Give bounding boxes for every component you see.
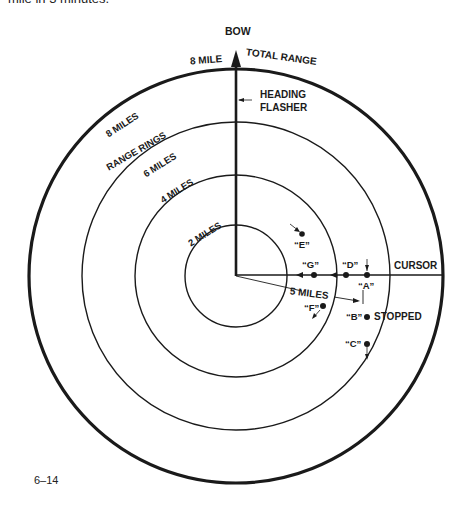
- two-miles-label: 2 MILES: [186, 219, 223, 248]
- target-f-blip: [320, 303, 326, 309]
- pointer-arrow-icon: [238, 98, 244, 102]
- five-miles-label: 5 MILES: [289, 285, 329, 301]
- radar-diagram: BOW 8 MILE TOTAL RANGE HEADING FLASHER 8…: [0, 0, 468, 517]
- target-c-label: “C”: [345, 338, 362, 349]
- target-a-blip: [364, 272, 370, 278]
- bow-label: BOW: [225, 25, 251, 37]
- target-d-label: “D”: [342, 259, 359, 270]
- target-d-blip: [343, 272, 349, 278]
- target-g-arrow-icon: [296, 272, 303, 278]
- target-g-blip: [311, 272, 317, 278]
- total-range-label: TOTAL RANGE: [245, 46, 317, 67]
- target-g-label: “G”: [302, 259, 319, 270]
- target-a-arrow-icon: [365, 265, 369, 271]
- flasher-label: FLASHER: [260, 102, 308, 113]
- target-d-arrow-icon: [330, 272, 337, 278]
- target-c-blip: [364, 341, 370, 347]
- target-f-label: “F”: [304, 302, 320, 313]
- target-a-label: “A”: [358, 280, 375, 291]
- five-mile-arrow-icon: [353, 298, 360, 303]
- figure-number: 6–14: [34, 474, 58, 486]
- target-b-blip: [364, 314, 370, 320]
- target-e-blip: [299, 231, 305, 237]
- stopped-label: STOPPED: [374, 311, 422, 322]
- target-e-label: “E”: [294, 239, 310, 250]
- bow-arrowhead-icon: [231, 50, 241, 67]
- six-miles-label: 6 MILES: [141, 150, 178, 179]
- eight-mile-label: 8 MILE: [190, 53, 223, 66]
- four-miles-label: 4 MILES: [158, 176, 195, 205]
- cursor-label: CURSOR: [394, 260, 438, 271]
- heading-label: HEADING: [260, 89, 306, 100]
- target-b-label: “B”: [346, 311, 363, 322]
